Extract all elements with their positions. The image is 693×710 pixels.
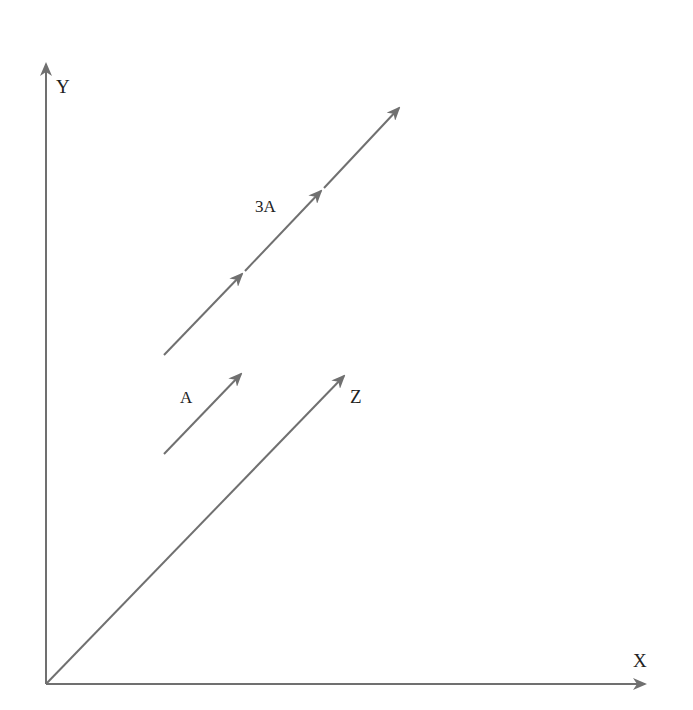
- y-axis-label: Y: [56, 76, 70, 97]
- vector-a: A: [164, 374, 241, 454]
- z-axis: Z: [46, 376, 362, 684]
- vector-3a-label: 3A: [255, 197, 277, 216]
- vector-a-label: A: [180, 388, 193, 407]
- vector-3a: 3A: [164, 108, 399, 355]
- x-axis: X: [46, 650, 647, 684]
- x-axis-label: X: [633, 650, 647, 671]
- y-axis: Y: [46, 64, 70, 684]
- z-axis-label: Z: [350, 386, 362, 407]
- vector-diagram: Y X Z A 3A: [0, 0, 693, 710]
